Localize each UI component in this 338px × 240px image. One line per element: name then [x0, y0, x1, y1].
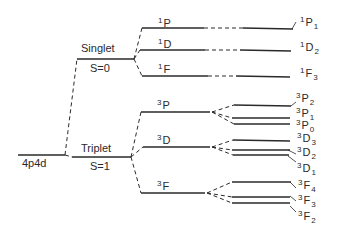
level-label-1F3: 1F3 [300, 66, 318, 82]
triplet-spin-label: S=1 [90, 160, 110, 172]
arrow-1P1 [292, 22, 296, 29]
term-1P: 1P [142, 16, 293, 29]
term-1D: 1D [140, 37, 291, 51]
arrow-3F3 [290, 196, 296, 201]
term-1F: 1F [142, 62, 290, 77]
arrow-3F2 [290, 206, 296, 212]
connector-config-triplet [65, 155, 72, 157]
connector-triplet-3F [131, 157, 141, 193]
arrow-3F4 [290, 182, 296, 188]
connector-config-singlet [65, 59, 77, 155]
connector-singlet-1F [134, 59, 142, 76]
svg-text:3P: 3P [157, 98, 170, 111]
triplet-label: Triplet [81, 142, 111, 154]
term-3F: 3F [141, 179, 291, 203]
level-label-3F4: 3F4 [298, 178, 316, 194]
svg-text:3D: 3D [157, 133, 170, 146]
connector-singlet-1P [134, 28, 142, 59]
arrow-3D2 [288, 150, 296, 154]
level-label-1P1: 1P1 [300, 15, 319, 31]
energy-level-diagram: 4p4d Singlet S=0 Triplet S=1 1P 1D 1F 1P… [0, 0, 338, 240]
term-3D: 3D [143, 133, 290, 155]
level-label-3D2: 3D2 [297, 145, 316, 161]
singlet-label: Singlet [81, 42, 115, 54]
term-3P: 3P [141, 98, 291, 124]
svg-text:1F: 1F [158, 62, 170, 75]
level-label-3F3: 3F3 [298, 193, 316, 209]
level-label-3P2: 3P2 [296, 91, 315, 107]
level-label-3F2: 3F2 [298, 209, 316, 225]
svg-text:1D: 1D [158, 37, 171, 50]
singlet-spin-label: S=0 [90, 62, 110, 74]
level-label-3D1: 3D1 [297, 161, 316, 177]
connector-singlet-1D [134, 50, 140, 59]
level-label-1D2: 1D2 [300, 40, 319, 56]
svg-text:3F: 3F [157, 179, 169, 192]
arrow-3D1 [288, 156, 296, 162]
svg-text:1P: 1P [158, 16, 171, 29]
config-label: 4p4d [22, 157, 46, 169]
